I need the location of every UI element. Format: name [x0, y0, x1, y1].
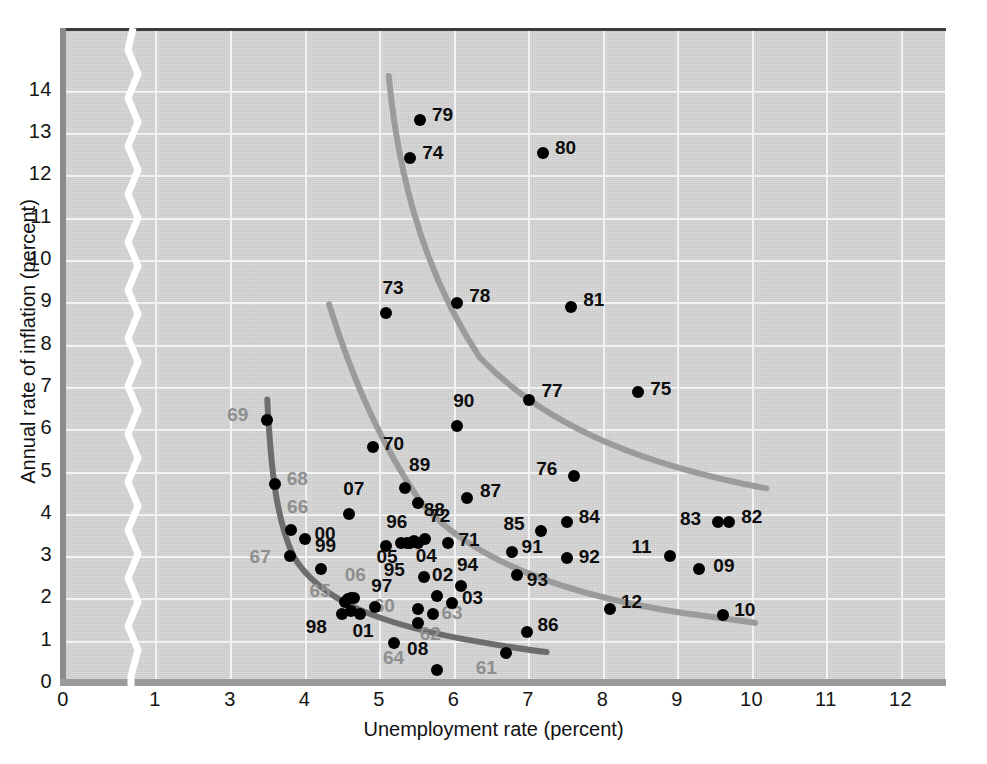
y-tick-0: 0: [0, 670, 52, 693]
data-point-label-91: 91: [522, 537, 543, 556]
x-tick-7: 7: [508, 688, 548, 711]
data-point-label-66: 66: [287, 497, 308, 516]
data-point-label-71: 71: [459, 530, 480, 549]
data-point-label-84: 84: [579, 507, 600, 526]
data-point-label-11: 11: [632, 537, 652, 556]
data-point-label-86: 86: [538, 615, 559, 634]
x-tick-9: 9: [657, 688, 697, 711]
x-tick-8: 8: [583, 688, 623, 711]
phillips-curve-1980s: [389, 76, 767, 488]
y-axis-title: Annual rate of inflation (percent): [17, 82, 40, 602]
data-point-label-68: 68: [287, 469, 308, 488]
data-point-label-88: 88: [424, 500, 445, 519]
data-point-label-67: 67: [250, 547, 271, 566]
x-tick-4: 4: [285, 688, 325, 711]
data-point-label-05: 05: [376, 547, 397, 566]
data-point-label-64: 64: [383, 648, 404, 667]
x-tick-5: 5: [359, 688, 399, 711]
data-point-label-90: 90: [453, 391, 474, 410]
data-point-label-02: 02: [432, 565, 453, 584]
data-point-74[interactable]: [404, 152, 416, 164]
data-point-label-80: 80: [555, 138, 576, 157]
data-point-71[interactable]: [442, 537, 454, 549]
data-point-label-89: 89: [409, 455, 430, 474]
data-point-84[interactable]: [561, 516, 573, 528]
data-point-03[interactable]: [446, 597, 458, 609]
data-point-label-73: 73: [382, 278, 403, 297]
data-point-label-69: 69: [227, 405, 248, 424]
y-axis-line: [60, 28, 66, 685]
data-point-label-62: 62: [420, 624, 441, 643]
data-point-81[interactable]: [565, 301, 577, 313]
data-point-93[interactable]: [511, 569, 523, 581]
data-point-68[interactable]: [269, 478, 281, 490]
data-point-11[interactable]: [664, 550, 676, 562]
y-tick-1: 1: [0, 628, 52, 651]
data-point-label-81: 81: [583, 290, 604, 309]
data-point-label-96: 96: [386, 512, 407, 531]
data-point-label-74: 74: [422, 143, 443, 162]
data-point-label-04: 04: [416, 546, 437, 565]
data-point-label-09: 09: [713, 556, 734, 575]
x-tick-6: 6: [434, 688, 474, 711]
data-point-99[interactable]: [315, 563, 327, 575]
data-point-label-75: 75: [650, 379, 671, 398]
x-axis-line: [60, 679, 946, 686]
x-tick-3: 3: [210, 688, 250, 711]
plot-area: 6108646263608698019765060302949593099967…: [65, 30, 945, 683]
data-point-label-70: 70: [383, 434, 404, 453]
data-point-12[interactable]: [604, 603, 616, 615]
data-point-label-10: 10: [734, 600, 755, 619]
data-point-label-82: 82: [741, 507, 762, 526]
data-point-label-87: 87: [480, 481, 501, 500]
data-point-06[interactable]: [345, 592, 357, 604]
data-point-96[interactable]: [404, 537, 416, 549]
phillips-curve-figure: 6108646263608698019765060302949593099967…: [0, 0, 987, 764]
data-point-label-98: 98: [306, 617, 327, 636]
data-point-label-94: 94: [457, 555, 478, 574]
data-point-79[interactable]: [414, 114, 426, 126]
data-point-label-01: 01: [352, 621, 373, 640]
data-point-label-78: 78: [469, 286, 490, 305]
data-point-87[interactable]: [461, 492, 473, 504]
x-tick-12: 12: [881, 688, 921, 711]
x-axis-title: Unemployment rate (percent): [0, 718, 987, 741]
data-point-label-79: 79: [432, 105, 453, 124]
data-point-92[interactable]: [561, 552, 573, 564]
data-point-67[interactable]: [284, 550, 296, 562]
data-point-60[interactable]: [412, 603, 424, 615]
data-point-label-85: 85: [503, 514, 524, 533]
data-point-66[interactable]: [285, 524, 297, 536]
data-point-91[interactable]: [506, 546, 518, 558]
data-point-61[interactable]: [500, 647, 512, 659]
data-point-label-12: 12: [621, 592, 642, 611]
plot-top-border: [62, 28, 946, 31]
data-point-07[interactable]: [343, 508, 355, 520]
data-point-95[interactable]: [418, 571, 430, 583]
data-point-76[interactable]: [568, 470, 580, 482]
data-point-00[interactable]: [299, 533, 311, 545]
data-point-label-03: 03: [462, 588, 483, 607]
data-point-label-00: 00: [315, 524, 336, 543]
x-tick-10: 10: [732, 688, 772, 711]
data-point-label-77: 77: [541, 381, 562, 400]
data-point-88[interactable]: [412, 497, 424, 509]
x-tick-1: 1: [135, 688, 175, 711]
data-point-label-76: 76: [536, 459, 557, 478]
data-point-label-06: 06: [345, 565, 366, 584]
data-point-label-61: 61: [476, 658, 497, 677]
data-point-90[interactable]: [451, 420, 463, 432]
phillips-curves: [65, 30, 945, 683]
data-point-label-65: 65: [309, 581, 330, 600]
data-point-label-07: 07: [343, 479, 364, 498]
data-point-label-83: 83: [680, 509, 701, 528]
data-point-86[interactable]: [521, 626, 533, 638]
data-point-94[interactable]: [455, 580, 467, 592]
data-point-label-92: 92: [579, 547, 600, 566]
x-tick-11: 11: [806, 688, 846, 711]
data-point-label-93: 93: [527, 570, 548, 589]
data-point-70[interactable]: [367, 441, 379, 453]
